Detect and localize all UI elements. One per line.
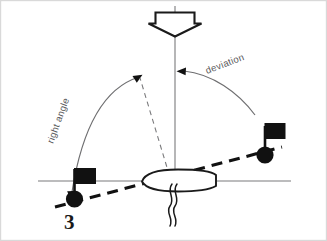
figure-canvas: deviation right angle 3: [0, 0, 327, 241]
figure-root: deviation right angle 3: [0, 0, 327, 241]
figure-background: [0, 0, 327, 241]
label-number-marker: 3: [64, 210, 75, 234]
lens-shaped-body: [142, 170, 216, 192]
